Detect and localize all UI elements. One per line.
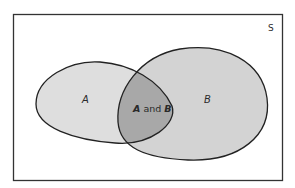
intersection-label-b: B [164,103,171,114]
intersection-label-a: A [132,103,140,114]
intersection-label: A and B [132,103,172,114]
universe-label: S [268,23,274,33]
set-a-label: A [81,94,89,105]
venn-diagram: S A B A and B [0,0,295,188]
set-b-label: B [204,94,211,105]
intersection-label-and: and [140,103,164,114]
